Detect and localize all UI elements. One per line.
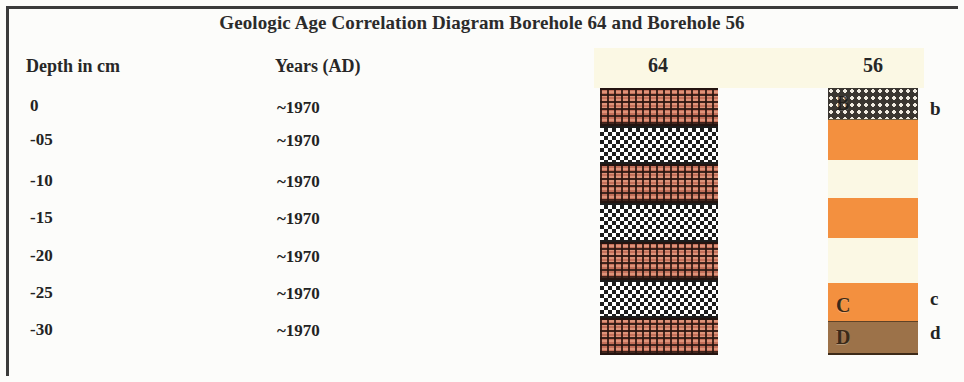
page-border-top	[6, 6, 958, 9]
lithology-band: B	[828, 88, 918, 120]
lithology-band	[600, 318, 718, 355]
depth-value: -15	[30, 208, 53, 228]
borehole-56-header: 56	[813, 54, 933, 77]
page-border-left	[6, 6, 9, 376]
year-value: ~1970	[277, 321, 320, 341]
depth-value: -20	[30, 246, 53, 266]
unit-label: c	[930, 288, 938, 310]
year-value: ~1970	[277, 131, 320, 151]
lithology-band	[828, 238, 918, 283]
year-value: ~1970	[277, 172, 320, 192]
depth-value: -30	[30, 320, 53, 340]
depth-value: -25	[30, 283, 53, 303]
depth-value: -10	[30, 171, 53, 191]
lithology-band	[828, 160, 918, 198]
lithology-band	[600, 88, 718, 126]
years-column-header: Years (AD)	[275, 56, 360, 77]
borehole-56-core-column: BCD	[828, 88, 918, 355]
borehole-64-core-column	[600, 88, 718, 355]
depth-value: -05	[30, 130, 53, 150]
unit-label: d	[930, 322, 941, 344]
year-value: ~1970	[277, 247, 320, 267]
lithology-band: D	[828, 321, 918, 355]
lithology-band	[600, 126, 718, 164]
lithology-band	[828, 198, 918, 238]
lithology-band	[600, 242, 718, 280]
band-letter: D	[836, 326, 850, 349]
band-letter: B	[836, 92, 849, 115]
year-value: ~1970	[277, 284, 320, 304]
unit-label: b	[930, 98, 941, 120]
lithology-band	[600, 280, 718, 318]
lithology-band	[600, 164, 718, 203]
geologic-correlation-figure: Geologic Age Correlation Diagram Borehol…	[0, 0, 964, 382]
lithology-band	[828, 120, 918, 160]
depth-column-header: Depth in cm	[26, 56, 120, 77]
lithology-band	[600, 203, 718, 242]
lithology-band: C	[828, 283, 918, 321]
borehole-64-header: 64	[598, 54, 718, 77]
year-value: ~1970	[277, 98, 320, 118]
depth-value: 0	[30, 96, 39, 116]
year-value: ~1970	[277, 209, 320, 229]
band-letter: C	[836, 294, 850, 317]
figure-title: Geologic Age Correlation Diagram Borehol…	[0, 12, 964, 34]
